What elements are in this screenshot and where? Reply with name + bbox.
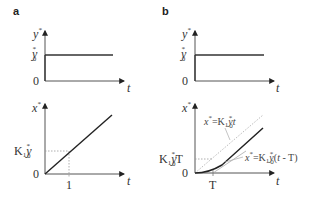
panel-b-output-plot: x* K1y*0T 0 T t x*=K1y*0t x*=K1y*0(t - T…: [159, 100, 298, 192]
x-axis-label: x*: [31, 100, 41, 115]
t-axis-label: t: [276, 174, 280, 188]
origin-label: 0: [182, 74, 188, 88]
x-axis-label: x*: [181, 100, 191, 115]
panel-b-input-plot: y* y*0 0 t: [180, 26, 280, 95]
origin-label: 0: [33, 74, 39, 88]
k1y0-label: K1y*0: [14, 142, 32, 160]
k1y0T-label: K1y*0T: [159, 150, 184, 168]
panel-b-label: b: [162, 5, 169, 17]
t-axis-label: t: [127, 174, 131, 188]
asymptote-delayed: [213, 151, 246, 173]
y0-label: y*0: [180, 45, 187, 63]
origin-label: 0: [182, 166, 188, 180]
panel-a-label: a: [13, 5, 20, 17]
origin-label: 0: [33, 167, 39, 181]
y-axis-label: y*: [32, 26, 42, 41]
annotation-upper: x*=K1y*0t: [203, 114, 236, 130]
x-tick-label: T: [209, 178, 217, 192]
y-axis-label: y*: [181, 26, 191, 41]
y0-label: y*0: [31, 45, 38, 63]
panel-a-input-plot: y* y*0 0 t: [31, 26, 131, 95]
ramp-line: [45, 115, 112, 174]
t-axis-label: t: [276, 81, 280, 95]
panel-a: a y* y*0 0 t x* K1y*0 0 1 t: [13, 5, 131, 192]
panel-a-output-plot: x* K1y*0 0 1 t: [14, 100, 131, 192]
annotation-lower: x*=K1y*0(t - T): [244, 150, 298, 166]
diagram-canvas: a y* y*0 0 t x* K1y*0 0 1 t b: [0, 0, 329, 199]
x-tick-label: 1: [66, 178, 72, 192]
panel-b: b y* y*0 0 t: [159, 5, 298, 192]
t-axis-label: t: [127, 81, 131, 95]
